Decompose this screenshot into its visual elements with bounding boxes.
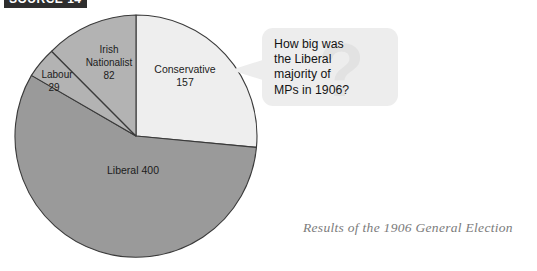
pie-label-liberal: Liberal 400 xyxy=(107,164,159,176)
pie-label-irish-nationalist-value: 82 xyxy=(103,70,115,81)
speech-bubble: ? How big was the Liberal majority of MP… xyxy=(262,28,398,106)
figure-root: SOURCE 14 Conservative 157 Liberal 400 L… xyxy=(0,0,537,271)
chart-caption: Results of the 1906 General Election xyxy=(303,220,513,236)
pie-label-conservative-name: Conservative xyxy=(154,63,215,75)
speech-bubble-text: How big was the Liberal majority of MPs … xyxy=(274,37,388,98)
pie-label-conservative-value: 157 xyxy=(176,76,194,88)
pie-label-labour-name: Labour xyxy=(41,69,73,80)
pie-label-labour-value: 29 xyxy=(48,82,60,93)
pie-label-irish-nationalist-line1: Irish xyxy=(100,44,119,55)
pie-label-irish-nationalist-line2: Nationalist xyxy=(86,57,133,68)
